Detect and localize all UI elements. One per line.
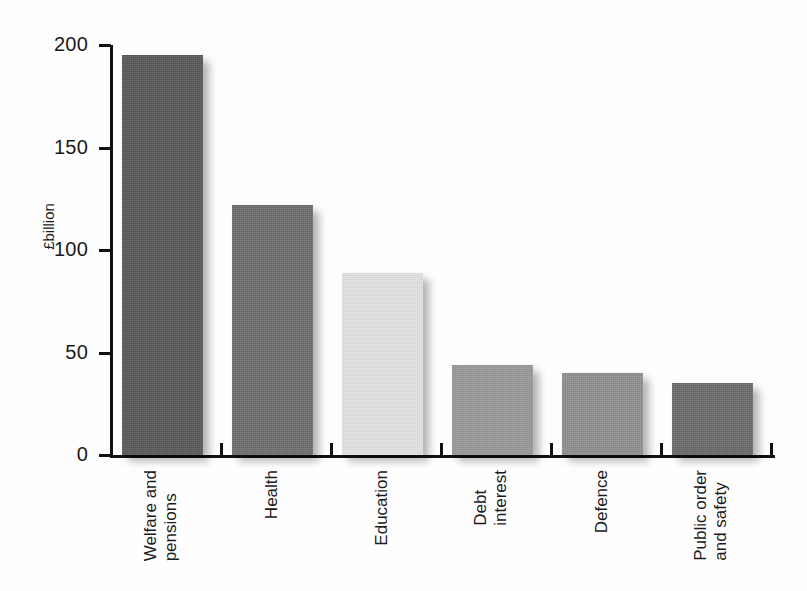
x-axis-category-label: Defence [592, 470, 612, 533]
x-axis-tick [770, 443, 773, 456]
x-axis-tick [220, 443, 223, 456]
x-axis-tick [330, 443, 333, 456]
x-axis-category-label-line: Welfare and [141, 470, 161, 561]
bar-face [452, 365, 533, 455]
x-axis-category-label-line: pensions [161, 470, 181, 561]
y-axis-tick-label: 150 [20, 137, 88, 157]
y-axis-tick-label: 50 [20, 342, 88, 362]
x-axis-tick [550, 443, 553, 456]
y-axis-tick-label: 200 [20, 34, 88, 54]
bar [562, 373, 643, 455]
bar-face [562, 373, 643, 455]
bar [672, 383, 753, 455]
bar [342, 273, 423, 455]
x-axis-category-label-line: Health [262, 470, 282, 519]
bar-face [342, 273, 423, 455]
x-axis-tick [440, 443, 443, 456]
x-axis-category-label-line: Education [372, 470, 392, 546]
x-axis-tick [110, 443, 113, 456]
y-axis-tick-label: 100 [20, 239, 88, 259]
x-axis-category-label-line: Public order [691, 470, 711, 561]
y-axis-title: £billion [40, 167, 57, 287]
bar [232, 205, 313, 455]
x-axis-category-label-line: and safety [711, 470, 731, 561]
bar-face [232, 205, 313, 455]
y-axis-tick-label: 0 [20, 444, 88, 464]
y-axis-tick [99, 44, 111, 47]
x-axis-category-label-line: interest [491, 470, 511, 526]
y-axis-tick [99, 249, 111, 252]
y-axis-tick [99, 147, 111, 150]
x-axis-tick [660, 443, 663, 456]
x-axis-category-label-line: Debt [471, 470, 491, 526]
x-axis-category-label: Welfare andpensions [141, 470, 181, 561]
x-axis-category-label: Public orderand safety [691, 470, 731, 561]
x-axis-category-label-line: Defence [592, 470, 612, 533]
bar-chart-figure: £billion 050100150200 Welfare andpension… [0, 0, 807, 591]
bar [122, 55, 203, 455]
bar [452, 365, 533, 455]
x-axis-category-label: Health [262, 470, 282, 519]
x-axis-category-label: Debtinterest [471, 470, 511, 526]
y-axis-tick [99, 352, 111, 355]
bar-face [122, 55, 203, 455]
x-axis-category-label: Education [372, 470, 392, 546]
bar-face [672, 383, 753, 455]
